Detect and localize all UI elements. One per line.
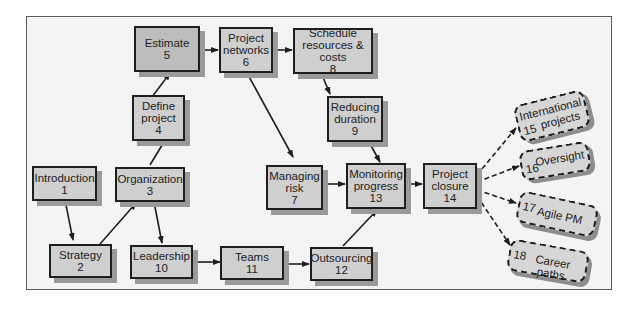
node-project-networks: Project networks 6 (219, 27, 273, 73)
node-number: 2 (77, 261, 83, 273)
node-label-line1: Project (432, 168, 468, 180)
edge-2-3 (100, 203, 136, 244)
node-teams: Teams 11 (220, 246, 284, 280)
node-label-line2: progress (354, 180, 399, 192)
node-number: 4 (155, 124, 161, 136)
edge-14-18 (477, 196, 510, 245)
node-number: 5 (164, 49, 170, 61)
edge-3-10 (154, 202, 162, 243)
node-label-line1: Project (228, 32, 264, 44)
node-label: Introduction (34, 172, 94, 184)
node-number: 13 (370, 192, 383, 204)
node-label-line1: Define (142, 100, 175, 112)
node-label-line2: duration (334, 113, 376, 125)
node-strategy: Strategy 2 (49, 244, 112, 278)
edge-9-13 (369, 142, 380, 162)
edge-1-2 (65, 200, 73, 240)
node-number: 12 (335, 264, 348, 276)
node-estimate: Estimate 5 (134, 26, 200, 72)
node-number: 7 (291, 194, 297, 206)
edge-14-15 (477, 128, 516, 175)
node-label-line2: risk (286, 182, 304, 194)
node-managing-risk: Managing risk 7 (266, 165, 323, 210)
edge-8-9 (322, 75, 330, 94)
edge-12-13 (343, 210, 377, 246)
node-project-closure: Project closure 14 (423, 163, 477, 209)
node-label: Outsourcing (311, 252, 373, 264)
node-outsourcing: Outsourcing 12 (310, 247, 373, 281)
edge-14-17 (477, 190, 516, 203)
node-monitoring-progress: Monitoring progress 13 (346, 163, 406, 209)
node-organization: Organization 3 (115, 167, 185, 202)
node-label: Organization (117, 173, 182, 185)
node-label: Teams (235, 251, 269, 263)
node-label: Strategy (59, 249, 102, 261)
node-label-line1: Monitoring (349, 168, 403, 180)
node-schedule-resources: Schedule resources & costs 8 (293, 28, 373, 74)
node-label-line2: resources & costs (295, 39, 371, 63)
node-number: 10 (155, 262, 168, 274)
node-number: 3 (147, 185, 153, 197)
node-label: Leadership (133, 250, 190, 262)
node-number: 8 (330, 63, 336, 75)
node-define-project: Define project 4 (132, 95, 185, 141)
node-leadership: Leadership 10 (130, 245, 193, 279)
node-number: 1 (61, 184, 67, 196)
node-reducing-duration: Reducing duration 9 (327, 96, 383, 142)
node-number: 9 (352, 125, 358, 137)
node-number: 6 (243, 56, 249, 68)
node-label-line2: project (141, 112, 176, 124)
node-label-line2: closure (431, 180, 468, 192)
node-number: 18 (513, 248, 528, 262)
node-number: 16 (525, 162, 540, 176)
node-label-line1: Managing (269, 170, 320, 182)
node-number: 14 (444, 192, 457, 204)
edge-4-5 (152, 73, 170, 97)
node-introduction: Introduction 1 (32, 166, 97, 201)
node-number: 11 (246, 263, 258, 275)
node-number: 15 (522, 122, 537, 137)
node-label-line1: Reducing (331, 101, 380, 113)
edge-6-7 (247, 73, 293, 157)
node-label-line1: Schedule (309, 27, 357, 39)
node-number: 17 (522, 200, 537, 214)
node-label: Estimate (145, 37, 190, 49)
node-label-line2: networks (223, 44, 269, 56)
